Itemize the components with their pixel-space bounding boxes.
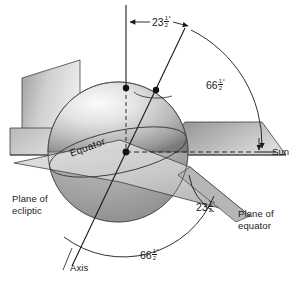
tilt-angle-label-top: 2312° bbox=[152, 15, 171, 28]
complement-angle-label-right: 6612° bbox=[206, 78, 225, 91]
plane-of-equator-label-line2: equator bbox=[238, 220, 271, 231]
tilt-angle-label-bottom: 2312° bbox=[196, 200, 215, 213]
diagram-canvas bbox=[0, 0, 304, 285]
plane-of-ecliptic-label-line2: ecliptic bbox=[12, 205, 42, 216]
axis-label: Axis bbox=[70, 262, 88, 273]
axial-tilt-diagram: 2312° 6612° Sun Equator Plane of eclipti… bbox=[0, 0, 304, 285]
sun-label: Sun bbox=[272, 146, 289, 157]
plane-of-equator-label-line1: Plane of bbox=[238, 208, 274, 219]
complement-angle-label-bottom: 6612° bbox=[140, 248, 159, 261]
plane-of-ecliptic-label-line1: Plane of bbox=[12, 193, 48, 204]
